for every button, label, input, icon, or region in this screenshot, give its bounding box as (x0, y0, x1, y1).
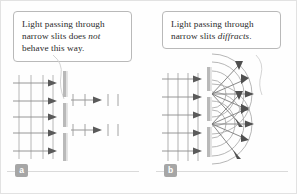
bubble-tail-a (53, 55, 64, 99)
caption-b-line3: . (249, 31, 251, 41)
incoming-rays-a (13, 80, 57, 155)
footer-a: a (1, 164, 149, 178)
panel-badge-b: b (164, 164, 177, 177)
incoming-arrowheads-a (48, 80, 57, 155)
caption-a-line2-pre: narrow slits does (22, 31, 88, 41)
diagram-b (150, 53, 297, 173)
incoming-arrowheads-b (193, 76, 202, 155)
caption-a-line1: Light passing through (22, 19, 105, 29)
panel-badge-a: a (15, 164, 28, 177)
outgoing-beam-a-1 (71, 94, 118, 106)
diagram-b-svg (150, 53, 297, 173)
caption-a-emphasis: not (88, 31, 100, 41)
barrier-a (63, 71, 67, 161)
panel-b: Light passing through narrow slits diffr… (150, 1, 297, 194)
barrier-b (207, 67, 211, 157)
caption-bubble-b: Light passing through narrow slits diffr… (162, 11, 281, 49)
diagram-a-svg (1, 53, 149, 173)
figure-container: Light passing through narrow slits does … (0, 0, 297, 194)
caption-a-line3: behave this way. (22, 43, 85, 53)
caption-b-line1: Light passing through (171, 19, 254, 29)
outgoing-beams-a (71, 94, 118, 136)
footer-b: b (150, 164, 297, 178)
diagram-a (1, 53, 149, 173)
bubble-tail-b (256, 55, 262, 95)
caption-b-line2-pre: narrow slits (171, 31, 218, 41)
panel-a: Light passing through narrow slits does … (1, 1, 149, 194)
caption-b-emphasis: diffracts (218, 31, 250, 41)
outgoing-beam-a-2 (71, 124, 118, 136)
